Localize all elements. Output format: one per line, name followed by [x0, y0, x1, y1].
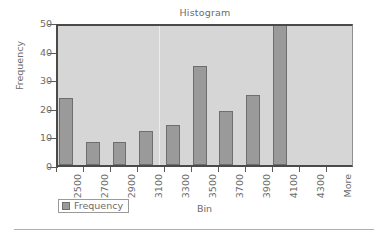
- x-tick-label-4300: 4300: [316, 174, 326, 198]
- bar-slot: [138, 26, 165, 165]
- bar-slot: [192, 26, 219, 165]
- bar-3300[interactable]: [166, 125, 180, 165]
- y-tick-label: 30: [20, 76, 52, 86]
- bottom-divider: [14, 229, 374, 230]
- x-tick-label-3300: 3300: [181, 174, 191, 198]
- bar-3700[interactable]: [219, 111, 233, 165]
- bar-slot: [325, 26, 352, 165]
- x-tick-label-2900: 2900: [127, 174, 137, 198]
- x-tick: [272, 167, 273, 172]
- x-tick: [245, 167, 246, 172]
- bar-3100[interactable]: [139, 131, 153, 165]
- y-tick-label: 20: [20, 105, 52, 115]
- bar-slot: [111, 26, 138, 165]
- bar-series-frequency: [58, 26, 352, 165]
- x-tick-label-4100: 4100: [289, 174, 299, 198]
- x-tick-label-More: More: [343, 174, 353, 198]
- x-tick-label-3700: 3700: [235, 174, 245, 198]
- y-tick-label: 10: [20, 133, 52, 143]
- y-axis-title: Frequency: [14, 31, 25, 101]
- bar-slot: [299, 26, 326, 165]
- x-tick: [299, 167, 300, 172]
- plot-area: [58, 26, 352, 165]
- bar-3500[interactable]: [193, 66, 207, 165]
- plot-frame: [56, 24, 353, 167]
- y-tick-label: 50: [20, 19, 52, 29]
- x-tick-label-3500: 3500: [208, 174, 218, 198]
- histogram-figure: Histogram Frequency 01020304050 25002700…: [0, 0, 385, 236]
- y-tick-label: 0: [20, 162, 52, 172]
- bar-4100[interactable]: [273, 26, 287, 165]
- bar-slot: [85, 26, 112, 165]
- chart-title: Histogram: [55, 7, 355, 18]
- x-tick-label-3100: 3100: [154, 174, 164, 198]
- x-tick-label-2700: 2700: [100, 174, 110, 198]
- bar-slot: [58, 26, 85, 165]
- x-tick: [218, 167, 219, 172]
- x-tick: [326, 167, 327, 172]
- x-tick: [110, 167, 111, 172]
- x-tick: [137, 167, 138, 172]
- x-tick-label-3900: 3900: [262, 174, 272, 198]
- bar-2500[interactable]: [59, 98, 73, 165]
- legend-swatch-frequency: [62, 202, 70, 210]
- bar-3900[interactable]: [246, 95, 260, 165]
- bar-slot: [245, 26, 272, 165]
- legend: Frequency: [58, 199, 129, 213]
- x-tick: [56, 167, 57, 172]
- x-tick: [164, 167, 165, 172]
- bar-2900[interactable]: [113, 142, 127, 165]
- x-tick-label-2500: 2500: [73, 174, 83, 198]
- legend-label-frequency: Frequency: [74, 201, 123, 211]
- bar-slot: [272, 26, 299, 165]
- bar-2700[interactable]: [86, 142, 100, 165]
- x-tick: [191, 167, 192, 172]
- bar-slot: [218, 26, 245, 165]
- bar-slot: [165, 26, 192, 165]
- x-tick: [83, 167, 84, 172]
- y-tick-label: 40: [20, 48, 52, 58]
